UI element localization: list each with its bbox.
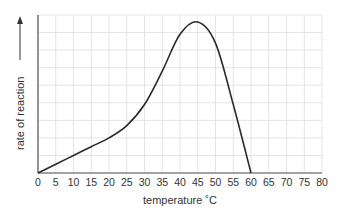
x-tick: 75 — [298, 176, 310, 188]
x-tick: 50 — [210, 176, 222, 188]
x-axis-label: temperature ˚C — [143, 194, 217, 206]
x-tick: 30 — [139, 176, 151, 188]
x-tick: 45 — [192, 176, 204, 188]
x-tick: 65 — [263, 176, 275, 188]
chart: 05101520253035404550556065707580 tempera… — [0, 0, 340, 213]
x-tick: 20 — [103, 176, 115, 188]
x-tick: 55 — [227, 176, 239, 188]
x-tick: 70 — [281, 176, 293, 188]
x-tick: 0 — [35, 176, 41, 188]
y-axis-label: rate of reaction — [14, 77, 26, 150]
x-tick: 10 — [68, 176, 80, 188]
y-axis-label-group: rate of reaction — [14, 77, 26, 150]
grid — [38, 15, 322, 173]
x-tick: 5 — [53, 176, 59, 188]
x-tick: 15 — [85, 176, 97, 188]
x-tick: 40 — [174, 176, 186, 188]
y-axis-arrow-icon — [17, 16, 23, 60]
x-tick: 60 — [245, 176, 257, 188]
x-tick: 35 — [156, 176, 168, 188]
x-tick: 25 — [121, 176, 133, 188]
x-tick: 80 — [316, 176, 328, 188]
x-tick-labels: 05101520253035404550556065707580 — [35, 176, 328, 188]
